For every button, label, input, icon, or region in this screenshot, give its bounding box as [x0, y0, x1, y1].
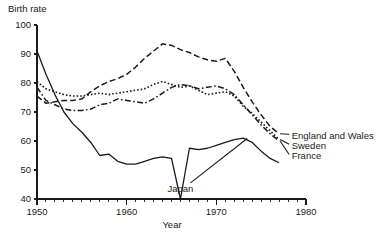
series-leader-lines [190, 134, 289, 183]
y-tick-label-90: 90 [20, 48, 31, 59]
birth-rate-line-chart: 405060708090100 1950196019701980 Birth r… [0, 0, 376, 239]
series-label-france: France [292, 150, 322, 161]
y-axis-title: Birth rate [8, 3, 47, 14]
y-tick-label-100: 100 [15, 19, 31, 30]
x-tick-label-1960: 1960 [116, 206, 137, 217]
x-axis-tick-labels: 1950196019701980 [26, 206, 316, 217]
series-line-sweden [37, 82, 279, 140]
series-label-japan: Japan [168, 183, 194, 194]
y-tick-label-60: 60 [20, 135, 31, 146]
data-series-lines [37, 44, 279, 199]
y-axis-group: 405060708090100 [15, 19, 37, 204]
y-tick-label-50: 50 [20, 164, 31, 175]
chart-canvas: 405060708090100 1950196019701980 Birth r… [0, 0, 376, 239]
x-axis-title: Year [162, 219, 181, 230]
x-tick-label-1980: 1980 [295, 206, 316, 217]
series-line-japan [37, 51, 279, 199]
x-tick-label-1970: 1970 [206, 206, 227, 217]
y-tick-label-40: 40 [20, 193, 31, 204]
y-axis-tick-labels: 405060708090100 [15, 19, 31, 204]
y-tick-label-80: 80 [20, 77, 31, 88]
series-labels: England and WalesSwedenFranceJapan [168, 130, 374, 195]
series-line-england-and-wales [37, 44, 279, 134]
x-axis-group: 1950196019701980 [26, 199, 316, 217]
y-tick-label-70: 70 [20, 106, 31, 117]
series-line-france [37, 84, 279, 141]
x-tick-label-1950: 1950 [26, 206, 47, 217]
